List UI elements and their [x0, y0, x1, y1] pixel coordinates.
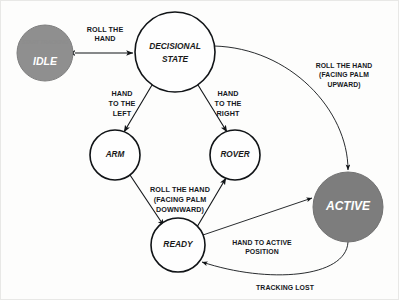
node-decisional-state-label-line2: STATE: [162, 54, 189, 64]
edge-label-decisional-arm-line1: HAND: [111, 89, 132, 98]
edge-label-ready-active-line1: HAND TO ACTIVE: [232, 239, 292, 246]
node-idle-label: IDLE: [33, 55, 58, 67]
edge-idle-decisional: ROLL THE HAND: [75, 25, 133, 53]
node-idle-sublabel-line1: START TRACKING: [22, 39, 69, 45]
edge-label-ready-active-line2: POSITION: [245, 248, 279, 255]
node-arm-label: ARM: [105, 150, 125, 159]
edge-label-arm-ready-line2: (FACING PALM: [154, 195, 207, 204]
edge-line-active-ready: [202, 242, 348, 275]
node-idle-circle[interactable]: [17, 25, 73, 81]
edge-label-decisional-rover-line1: HAND: [217, 89, 238, 98]
edge-decisional-rover: HAND TO THE RIGHT: [198, 85, 242, 132]
edge-label-idle-decisional-line1: ROLL THE: [87, 25, 124, 34]
node-rover-label: ROVER: [220, 150, 249, 159]
edge-arm-ready: ROLL THE HAND (FACING PALM DOWNWARD): [130, 175, 210, 226]
edge-label-decisional-active-line2: (FACING PALM: [319, 71, 369, 79]
node-active[interactable]: ACTIVE: [313, 172, 383, 242]
node-idle[interactable]: START TRACKING IDLE: [17, 25, 73, 81]
node-ready-label: READY: [163, 239, 194, 249]
edge-label-decisional-active-line1: ROLL THE HAND: [316, 62, 373, 69]
edge-label-arm-ready-line1: ROLL THE HAND: [150, 185, 210, 194]
node-decisional-state-circle[interactable]: [135, 12, 215, 92]
node-decisional-state-label-line1: DECISIONAL: [149, 41, 201, 51]
edge-label-arm-ready-line3: DOWNWARD): [156, 205, 205, 214]
node-ready[interactable]: READY: [151, 218, 205, 272]
node-rover[interactable]: ROVER: [210, 130, 260, 180]
edge-label-active-ready: TRACKING LOST: [256, 284, 315, 291]
edge-decisional-arm: HAND TO THE LEFT: [109, 85, 152, 132]
state-diagram: ROLL THE HAND HAND TO THE LEFT HAND TO T…: [0, 0, 399, 300]
edge-ready-active: HAND TO ACTIVE POSITION: [200, 198, 312, 255]
edge-label-decisional-rover-line2: TO THE: [215, 99, 242, 108]
edge-label-decisional-arm-line3: LEFT: [113, 109, 132, 118]
node-active-label: ACTIVE: [325, 199, 371, 213]
edge-label-decisional-active-line3: UPWARD): [327, 81, 360, 89]
edge-label-decisional-arm-line2: TO THE: [109, 99, 136, 108]
edge-label-idle-decisional-line2: HAND: [94, 34, 115, 43]
node-decisional-state[interactable]: DECISIONAL STATE: [135, 12, 215, 92]
diagram-canvas: ROLL THE HAND HAND TO THE LEFT HAND TO T…: [0, 0, 399, 300]
node-arm[interactable]: ARM: [90, 130, 140, 180]
edge-label-decisional-rover-line3: RIGHT: [217, 109, 240, 118]
edge-line-ready-active: [200, 198, 312, 236]
